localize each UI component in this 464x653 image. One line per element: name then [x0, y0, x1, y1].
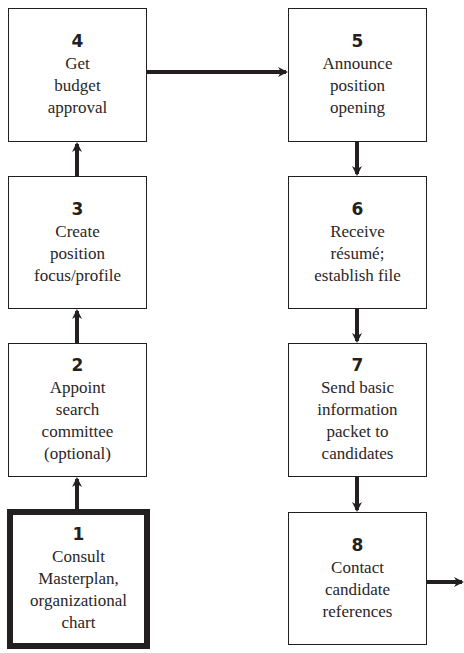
- step-label: Contact candidate references: [323, 557, 393, 623]
- step-label: Announce position opening: [323, 53, 393, 119]
- step-8-box: 8 Contact candidate references: [288, 512, 427, 645]
- step-1-box: 1 Consult Masterplan, organizational cha…: [7, 509, 150, 649]
- step-number: 7: [352, 355, 364, 375]
- step-number: 4: [72, 31, 84, 51]
- step-number: 2: [72, 355, 84, 375]
- step-3-box: 3 Create position focus/profile: [8, 176, 147, 309]
- step-2-box: 2 Appoint search committee (optional): [8, 343, 147, 477]
- step-7-box: 7 Send basic information packet to candi…: [288, 343, 427, 477]
- step-label: Send basic information packet to candida…: [317, 377, 397, 465]
- step-label: Consult Masterplan, organizational chart: [30, 546, 127, 634]
- step-number: 1: [73, 524, 85, 544]
- step-number: 8: [352, 535, 364, 555]
- step-4-box: 4 Get budget approval: [8, 8, 147, 142]
- step-6-box: 6 Receive résumé; establish file: [288, 176, 427, 309]
- step-label: Receive résumé; establish file: [314, 221, 400, 287]
- step-number: 6: [352, 199, 364, 219]
- step-5-box: 5 Announce position opening: [288, 8, 427, 142]
- step-number: 3: [72, 199, 84, 219]
- step-label: Get budget approval: [48, 53, 107, 119]
- step-label: Create position focus/profile: [34, 221, 121, 287]
- step-number: 5: [352, 31, 364, 51]
- step-label: Appoint search committee (optional): [42, 377, 114, 465]
